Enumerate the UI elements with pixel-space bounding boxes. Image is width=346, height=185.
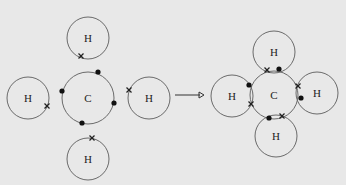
hydrogen-atom-bottom-before-label: H <box>84 153 92 165</box>
carbon-atom-before-label: C <box>84 92 91 104</box>
hydrogen-atom-right-before: H <box>128 77 170 119</box>
carbon-atom-after-label: C <box>270 89 277 101</box>
hydrogen-atom-right-after: H <box>296 72 338 114</box>
hydrogen-atom-right-after-label: H <box>313 87 321 99</box>
shared-electron-dot-icon <box>246 82 251 87</box>
hydrogen-atom-left-after: H <box>211 75 253 117</box>
hydrogen-atom-bottom-after-label: H <box>272 130 280 142</box>
hydrogen-atom-top-after: H <box>253 31 295 73</box>
carbon-electron-dot-icon <box>59 88 64 93</box>
carbon-electron-dot-icon <box>79 120 84 125</box>
diagram-canvas: CHHHHHHHHC <box>0 0 346 185</box>
shared-electron-dot-icon <box>298 95 303 100</box>
hydrogen-atom-top-after-label: H <box>270 46 278 58</box>
hydrogen-atom-bottom-before: H <box>67 138 109 180</box>
hydrogen-atom-left-before-label: H <box>24 92 32 104</box>
hydrogen-atom-top-before-label: H <box>84 32 92 44</box>
hydrogen-atom-left-before: H <box>7 77 49 119</box>
carbon-atom-before: C <box>62 72 114 124</box>
reaction-arrow-icon <box>175 92 204 98</box>
carbon-electron-dot-icon <box>111 100 116 105</box>
hydrogen-atom-left-after-label: H <box>228 90 236 102</box>
carbon-atom-after: C <box>250 71 298 119</box>
shared-electron-dot-icon <box>276 66 281 71</box>
hydrogen-atom-bottom-after: H <box>255 115 297 157</box>
shared-electron-dot-icon <box>266 115 271 120</box>
hydrogen-atom-top-before: H <box>67 17 109 59</box>
carbon-electron-dot-icon <box>95 69 100 74</box>
methane-bonding-diagram: CHHHHHHHHC <box>0 0 346 185</box>
hydrogen-atom-right-before-label: H <box>145 92 153 104</box>
